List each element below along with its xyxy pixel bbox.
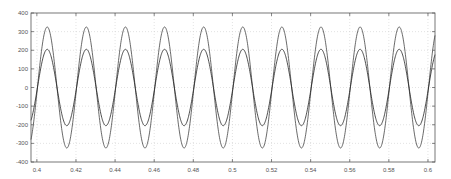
y-tick-label: 400: [18, 10, 29, 16]
x-tick-label: 0.54: [305, 167, 317, 173]
x-tick-label: 0.42: [70, 167, 82, 173]
y-tick-label: -400: [16, 159, 29, 165]
y-tick-label: 0: [25, 85, 29, 91]
x-tick-label: 0.4: [33, 167, 42, 173]
x-tick-label: 0.48: [187, 167, 199, 173]
x-tick-label: 0.56: [344, 167, 356, 173]
x-tick-label: 0.46: [148, 167, 160, 173]
x-tick-label: 0.5: [228, 167, 237, 173]
x-tick-label: 0.6: [424, 167, 433, 173]
y-tick-label: 300: [18, 29, 29, 35]
y-tick-label: -200: [16, 122, 29, 128]
line-chart: 4003002001000-100-200-300-400 0.40.420.4…: [0, 0, 451, 179]
y-tick-label: 200: [18, 47, 29, 53]
y-tick-label: 100: [18, 66, 29, 72]
x-tick-label: 0.52: [266, 167, 278, 173]
y-tick-label: -100: [16, 103, 29, 109]
x-tick-label: 0.58: [383, 167, 395, 173]
y-axis: 4003002001000-100-200-300-400: [16, 10, 435, 165]
x-tick-label: 0.44: [109, 167, 121, 173]
y-tick-label: -300: [16, 140, 29, 146]
